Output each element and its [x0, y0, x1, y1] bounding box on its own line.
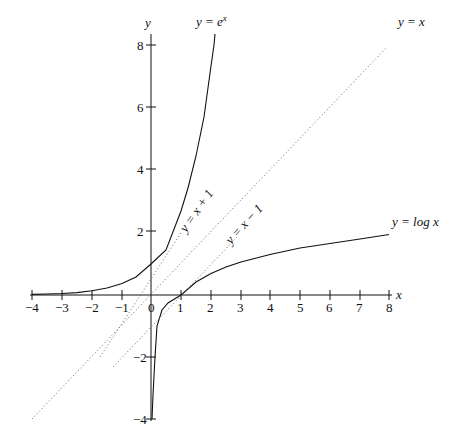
x-tick-label: 1 — [177, 300, 184, 315]
x-minus-1-line-label: y = x − 1 — [221, 201, 266, 249]
x-tick-label: 4 — [267, 300, 274, 315]
log-curve-label: y = log x — [390, 214, 439, 229]
x-tick-label: 2 — [207, 300, 214, 315]
x-tick-label: 6 — [326, 300, 333, 315]
x-tick-label: 0 — [148, 300, 155, 315]
y-tick-label: 2 — [137, 224, 144, 239]
y-tick-label: 4 — [137, 162, 144, 177]
y-tick-label: 6 — [137, 100, 144, 115]
y-tick-label: −2 — [133, 350, 147, 365]
x-tick-label: 8 — [386, 300, 393, 315]
x-tick-label: −4 — [25, 300, 39, 315]
x-tick-label: 7 — [356, 300, 363, 315]
exp-curve — [32, 34, 215, 294]
exp-curve-label: y = ex — [194, 13, 227, 29]
x-tick-labels: −4 −3 −2 −1 0 1 2 3 4 5 6 7 8 — [25, 300, 393, 315]
log-curve — [152, 235, 389, 420]
identity-line-label: y = x — [396, 14, 425, 29]
y-tick-labels: 8 6 4 2 −2 −4 — [133, 38, 147, 427]
function-plot: y x −4 −3 −2 −1 0 1 2 3 4 5 6 7 8 8 6 4 … — [0, 0, 459, 441]
y-tick-label: −4 — [133, 412, 147, 427]
x-minus-1-line — [113, 236, 238, 367]
y-tick-label: 8 — [137, 38, 144, 53]
y-axis-label: y — [143, 15, 151, 30]
x-tick-label: −1 — [115, 300, 129, 315]
x-axis-label: x — [395, 287, 402, 302]
x-tick-label: 5 — [297, 300, 304, 315]
x-tick-label: −2 — [85, 300, 99, 315]
identity-line — [32, 47, 387, 419]
x-tick-label: 3 — [237, 300, 244, 315]
x-tick-label: −3 — [55, 300, 69, 315]
